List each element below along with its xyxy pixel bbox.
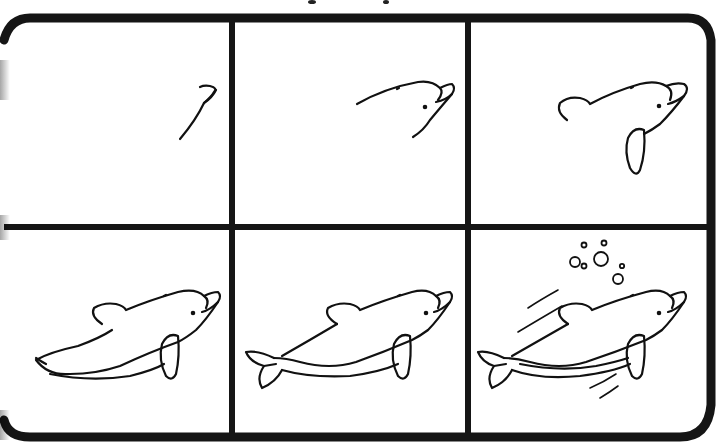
steps-grid bbox=[0, 0, 720, 443]
step-6-drawing bbox=[478, 290, 686, 398]
step-1-drawing bbox=[180, 86, 216, 139]
step-2-drawing bbox=[357, 82, 454, 137]
bubbles bbox=[570, 241, 624, 285]
drawing-tutorial-sheet: How to draw a dolphin bbox=[0, 0, 720, 443]
step-3-drawing bbox=[559, 82, 687, 173]
step-5-drawing bbox=[246, 291, 452, 388]
cut-off-title bbox=[308, 0, 389, 4]
binding-shadow-bottom bbox=[0, 410, 10, 440]
binding-shadow-middle bbox=[0, 215, 10, 240]
binding-shadow-top bbox=[0, 60, 10, 100]
step-4-drawing bbox=[36, 291, 220, 379]
